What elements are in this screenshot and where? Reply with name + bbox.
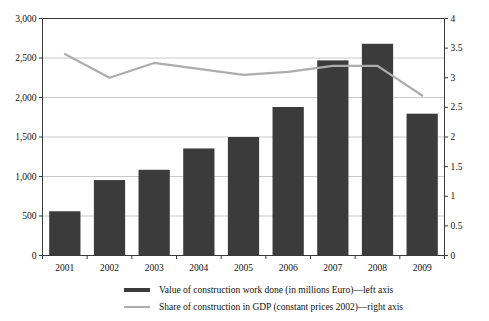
bar	[273, 107, 304, 256]
right-axis-tick-label: 2	[451, 132, 456, 142]
left-axis-tick-label: 1,000	[0, 172, 37, 182]
bar	[317, 60, 348, 255]
x-axis-tick-label: 2001	[43, 263, 88, 273]
right-axis-tick-label: 1.5	[451, 162, 463, 172]
x-axis-tick-label: 2005	[221, 263, 266, 273]
right-axis-tick-label: 0.5	[451, 221, 463, 231]
left-axis-tick-label: 0	[0, 251, 37, 261]
right-axis-tick-label: 0	[451, 251, 456, 261]
left-axis-tick-label: 3,000	[0, 14, 37, 24]
chart-plot-area	[0, 0, 489, 321]
bar	[407, 114, 438, 256]
bar	[362, 44, 393, 256]
x-axis-tick-label: 2004	[177, 263, 222, 273]
legend-line-swatch-icon	[124, 306, 150, 308]
left-axis-tick-label: 500	[0, 211, 37, 221]
legend-item-label: Share of construction in GDP (constant p…	[159, 302, 403, 312]
bar	[139, 170, 170, 256]
right-axis-tick-label: 3.5	[451, 43, 463, 53]
x-axis-tick-label: 2008	[355, 263, 400, 273]
legend-item: Share of construction in GDP (constant p…	[0, 298, 489, 315]
left-axis-tick-label: 1,500	[0, 132, 37, 142]
right-axis-tick-label: 4	[451, 14, 456, 24]
right-axis-tick-label: 3	[451, 73, 456, 83]
bar	[183, 148, 214, 255]
x-axis-tick-label: 2002	[87, 263, 132, 273]
chart-figure: 05001,0001,5002,0002,5003,000 00.511.522…	[0, 0, 489, 321]
right-axis-tick-label: 2.5	[451, 102, 463, 112]
right-axis-tick-label: 1	[451, 191, 456, 201]
bar	[94, 180, 125, 255]
x-axis-tick-label: 2003	[132, 263, 177, 273]
legend-bar-swatch-icon	[124, 288, 150, 292]
x-axis-tick-label: 2007	[311, 263, 356, 273]
legend-item: Value of construction work done (in mill…	[0, 281, 489, 298]
chart-legend: Value of construction work done (in mill…	[0, 281, 489, 315]
left-axis-tick-label: 2,500	[0, 53, 37, 63]
x-axis-tick-label: 2006	[266, 263, 311, 273]
legend-item-label: Value of construction work done (in mill…	[159, 285, 393, 295]
bar	[228, 137, 259, 256]
bar	[49, 211, 80, 255]
x-axis-tick-label: 2009	[400, 263, 445, 273]
left-axis-tick-label: 2,000	[0, 93, 37, 103]
